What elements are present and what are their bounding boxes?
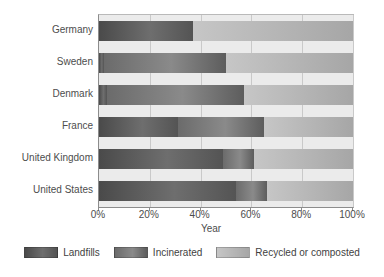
bar-row — [99, 181, 353, 201]
bar-segment — [244, 85, 353, 105]
x-tick-label: 0% — [91, 209, 105, 220]
bar-segment — [236, 181, 266, 201]
legend-item[interactable]: Incinerated — [114, 247, 202, 258]
legend-swatch — [114, 247, 148, 258]
x-tick-label: 100% — [339, 209, 365, 220]
legend-swatch — [24, 247, 58, 258]
stacked-bar-chart: GermanySwedenDenmarkFranceUnited Kingdom… — [0, 0, 384, 277]
chart-legend: LandfillsIncineratedRecycled or composte… — [0, 247, 384, 258]
plot-area — [98, 14, 354, 208]
category-label-denmark: Denmark — [52, 88, 93, 99]
bar-segment — [104, 53, 226, 73]
category-label-sweden: Sweden — [57, 56, 93, 67]
bar-rows — [99, 15, 353, 207]
x-tick-label: 40% — [190, 209, 210, 220]
bar-segment — [226, 53, 353, 73]
bar-row — [99, 149, 353, 169]
bar-segment — [254, 149, 353, 169]
bar-segment — [264, 117, 353, 137]
bar-row — [99, 85, 353, 105]
legend-label: Incinerated — [153, 247, 202, 258]
x-axis-title-text: Year — [201, 223, 221, 234]
legend-label: Landfills — [63, 247, 100, 258]
bar-segment — [99, 149, 223, 169]
bar-row — [99, 21, 353, 41]
legend-item[interactable]: Recycled or composted — [216, 247, 360, 258]
x-tick-label: 80% — [291, 209, 311, 220]
bar-segment — [107, 85, 244, 105]
bar-segment — [99, 85, 107, 105]
bar-segment — [193, 21, 353, 41]
gridline — [353, 15, 354, 207]
category-label-france: France — [62, 120, 93, 131]
bar-row — [99, 53, 353, 73]
x-tick-label: 20% — [139, 209, 159, 220]
legend-label: Recycled or composted — [255, 247, 360, 258]
bar-segment — [99, 181, 236, 201]
category-label-germany: Germany — [52, 24, 93, 35]
legend-swatch — [216, 247, 250, 258]
bar-segment — [178, 117, 264, 137]
legend-item[interactable]: Landfills — [24, 247, 100, 258]
category-label-united-states: United States — [33, 184, 93, 195]
x-tick-label: 60% — [240, 209, 260, 220]
category-label-united-kingdom: United Kingdom — [22, 152, 93, 163]
bar-segment — [99, 117, 178, 137]
x-axis-title: Year — [0, 223, 384, 234]
bar-segment — [99, 21, 193, 41]
bar-segment — [223, 149, 253, 169]
bar-row — [99, 117, 353, 137]
bar-segment — [267, 181, 353, 201]
